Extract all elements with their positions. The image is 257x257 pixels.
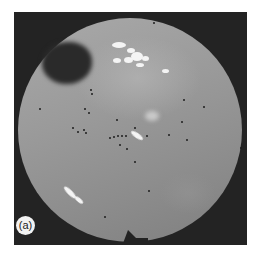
panel-label: (a) <box>16 216 35 235</box>
dot-marker <box>153 22 155 24</box>
dot-marker <box>134 161 136 163</box>
dot-marker <box>72 127 74 129</box>
dot-marker <box>203 106 205 108</box>
highlight-spot <box>162 69 169 73</box>
dot-marker <box>148 190 150 192</box>
dot-marker <box>113 136 115 138</box>
dot-marker <box>181 121 183 123</box>
highlight-spot <box>142 56 149 61</box>
dot-marker <box>121 135 123 137</box>
dot-marker <box>117 135 119 137</box>
dot-marker <box>146 135 148 137</box>
dot-marker <box>77 131 79 133</box>
dot-marker <box>90 89 92 91</box>
dot-marker <box>91 93 93 95</box>
dot-marker <box>39 108 41 110</box>
dot-marker <box>116 119 118 121</box>
dot-marker <box>126 148 128 150</box>
highlight-spot <box>136 63 144 67</box>
dot-marker <box>83 129 85 131</box>
dot-marker <box>186 139 188 141</box>
dot-marker <box>134 127 136 129</box>
highlight-spot <box>112 42 126 48</box>
dark-shadow-region <box>42 42 92 84</box>
highlight-spot <box>124 57 133 63</box>
soft-highlight <box>145 111 159 121</box>
dot-marker <box>104 216 106 218</box>
dot-marker <box>240 147 242 149</box>
dot-marker <box>125 135 127 137</box>
highlight-spot <box>113 58 121 63</box>
dot-marker <box>168 134 170 136</box>
dot-marker <box>88 112 90 114</box>
bottom-notch-fill <box>126 238 148 245</box>
dot-marker <box>85 132 87 134</box>
dot-marker <box>183 99 185 101</box>
dot-marker <box>119 144 121 146</box>
dot-marker <box>109 137 111 139</box>
image-frame: (a) <box>14 12 247 245</box>
dot-marker <box>84 108 86 110</box>
